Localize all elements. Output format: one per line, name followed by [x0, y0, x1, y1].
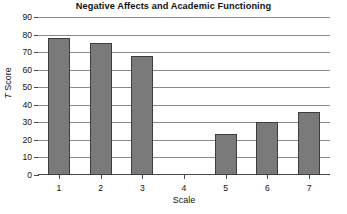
x-tick-mark [309, 175, 310, 179]
bar-1[interactable] [48, 38, 70, 175]
x-tick-mark [59, 175, 60, 179]
y-tick-mark [34, 35, 38, 36]
gridline [38, 87, 330, 88]
y-tick-mark [34, 140, 38, 141]
gridline [38, 140, 330, 141]
gridline [38, 17, 330, 18]
gridline [38, 70, 330, 71]
y-tick-label: 70 [22, 47, 32, 57]
y-tick-mark [34, 52, 38, 53]
y-tick-mark [34, 87, 38, 88]
y-tick-label: 10 [22, 152, 32, 162]
y-tick-label: 30 [22, 117, 32, 127]
y-tick-mark [34, 175, 38, 176]
x-tick-mark [101, 175, 102, 179]
x-tick-mark [184, 175, 185, 179]
y-tick-mark [34, 157, 38, 158]
bar-5[interactable] [215, 134, 237, 175]
y-tick-mark [34, 122, 38, 123]
x-tick-label-7: 7 [307, 183, 312, 193]
chart-title: Negative Affects and Academic Functionin… [0, 1, 347, 11]
bar-2[interactable] [90, 43, 112, 175]
y-tick-label: 50 [22, 82, 32, 92]
gridline [38, 35, 330, 36]
bar-6[interactable] [256, 122, 278, 175]
x-tick-label-2: 2 [98, 183, 103, 193]
y-tick-mark [34, 17, 38, 18]
bar-chart-figure: Negative Affects and Academic Functionin… [0, 0, 347, 214]
x-tick-label-1: 1 [56, 183, 61, 193]
x-axis-title: Scale [38, 195, 330, 205]
y-tick-mark [34, 105, 38, 106]
x-tick-label-5: 5 [223, 183, 228, 193]
gridline [38, 52, 330, 53]
y-tick-label: 20 [22, 135, 32, 145]
y-tick-label: 90 [22, 12, 32, 22]
x-tick-label-6: 6 [265, 183, 270, 193]
x-tick-mark [142, 175, 143, 179]
x-tick-label-4: 4 [182, 183, 187, 193]
y-tick-label: 60 [22, 65, 32, 75]
y-tick-label: 80 [22, 30, 32, 40]
gridline [38, 122, 330, 123]
plot-area: 01020304050607080901234567 [38, 17, 330, 175]
x-tick-mark [267, 175, 268, 179]
y-axis-title-t: T [3, 93, 13, 99]
gridline [38, 157, 330, 158]
y-tick-label: 40 [22, 100, 32, 110]
y-axis-title: T Score [3, 51, 13, 115]
bar-3[interactable] [131, 56, 153, 175]
y-tick-label: 0 [27, 170, 32, 180]
x-tick-mark [226, 175, 227, 179]
gridline [38, 105, 330, 106]
bar-7[interactable] [298, 112, 320, 175]
x-tick-label-3: 3 [140, 183, 145, 193]
y-axis-title-score: Score [3, 67, 13, 93]
y-tick-mark [34, 70, 38, 71]
